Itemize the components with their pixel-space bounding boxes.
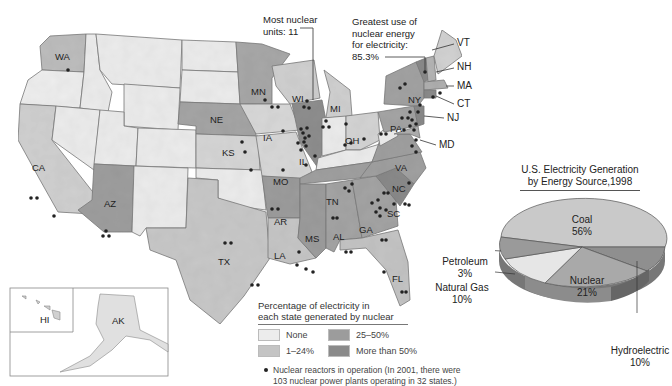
legend-item-25-50: 25–50%: [328, 329, 428, 341]
svg-text:FL: FL: [392, 273, 403, 284]
label-ct: CT: [457, 98, 470, 109]
pie-label-petroleum: Petroleum3%: [440, 256, 490, 279]
svg-text:TX: TX: [218, 256, 231, 267]
state-or: [20, 70, 84, 108]
pie-label-gas: Natural Gas10%: [432, 282, 492, 305]
state-nd: [182, 40, 238, 72]
svg-text:AR: AR: [274, 216, 287, 227]
state-nm: [132, 166, 188, 236]
svg-text:PA: PA: [390, 123, 403, 134]
pie-label-coal: Coal56%: [562, 214, 602, 237]
svg-text:IA: IA: [263, 132, 273, 143]
svg-text:NE: NE: [210, 114, 223, 125]
svg-text:AK: AK: [112, 315, 125, 326]
svg-text:AZ: AZ: [104, 198, 116, 209]
legend-title: Percentage of electricity in each state …: [258, 300, 408, 325]
svg-text:MI: MI: [330, 103, 341, 114]
legend-item-none: None: [258, 329, 328, 341]
svg-text:CA: CA: [32, 162, 46, 173]
state-ma: [424, 80, 448, 90]
map-legend: Percentage of electricity in each state …: [258, 300, 468, 386]
legend-item-1-24: 1–24%: [258, 345, 328, 357]
state-sd: [180, 70, 240, 104]
state-fl: [340, 230, 410, 306]
svg-text:GA: GA: [359, 224, 373, 235]
state-co: [136, 128, 196, 168]
label-vt: VT: [457, 37, 470, 48]
callout-most-units: Most nuclear units: 11: [263, 14, 317, 37]
svg-text:WA: WA: [55, 51, 71, 62]
svg-text:NC: NC: [392, 183, 406, 194]
state-mt: [96, 34, 182, 88]
svg-text:AL: AL: [333, 231, 345, 242]
label-md: MD: [439, 139, 455, 150]
pie-label-hydro: Hydroelectric10%: [605, 345, 672, 368]
reactor-note: Nuclear reactors in operation (In 2001, …: [258, 365, 468, 386]
pie-label-nuclear: Nuclear21%: [562, 275, 612, 298]
callout-greatest-use: Greatest use of nuclear energy for elect…: [352, 16, 417, 62]
label-ma: MA: [457, 80, 472, 91]
legend-item-over-50: More than 50%: [328, 345, 428, 357]
pie-title: U.S. Electricity Generation by Energy So…: [520, 164, 640, 191]
svg-text:WI: WI: [292, 93, 304, 104]
svg-text:MO: MO: [273, 176, 288, 187]
label-nj: NJ: [447, 112, 459, 123]
svg-text:MS: MS: [305, 233, 319, 244]
svg-text:LA: LA: [274, 250, 286, 261]
svg-text:HI: HI: [40, 314, 50, 325]
svg-text:SC: SC: [387, 208, 400, 219]
svg-text:OH: OH: [345, 135, 359, 146]
svg-text:KS: KS: [222, 147, 235, 158]
state-wy: [124, 84, 180, 130]
svg-text:MN: MN: [251, 86, 266, 97]
svg-text:VA: VA: [395, 162, 408, 173]
reactor-dot-icon: [264, 368, 268, 372]
label-nh: NH: [457, 61, 471, 72]
svg-text:TN: TN: [326, 196, 339, 207]
